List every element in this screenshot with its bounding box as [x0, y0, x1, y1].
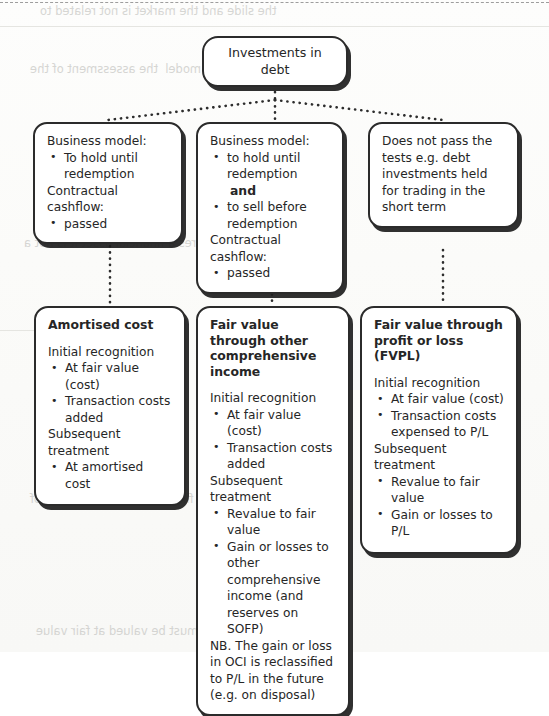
outcome-3-title: Fair value through profit or loss (FVPL): [374, 317, 504, 364]
outcome-2-heading-initial-recognition: Initial recognition: [210, 390, 336, 407]
list-item: to sell before redemption: [210, 199, 330, 232]
root-label: Investments in debt: [212, 45, 338, 78]
criteria-2-heading-contractual-cashflow: Contractual cashflow:: [210, 232, 330, 265]
outcome-3-subsequent-list: Revalue to fair value Gain or losses to …: [374, 474, 504, 540]
outcome-3-initial-list: At fair value (cost) Transaction costs e…: [374, 391, 504, 441]
outcome-1-initial-list: At fair value (cost) Transaction costs a…: [48, 360, 172, 426]
outcome-2-note: NB. The gain or loss in OCI is reclassif…: [210, 638, 336, 704]
criteria-2-business-model-list-b: to sell before redemption: [210, 199, 330, 232]
outcome-2-title: Fair value through other comprehensive i…: [210, 317, 336, 379]
criteria-1-heading-business-model: Business model:: [47, 133, 169, 150]
list-item: Gain or losses to other comprehensive in…: [210, 539, 336, 638]
outcome-2-heading-subsequent-treatment: Subsequent treatment: [210, 473, 336, 506]
node-outcome-amortised-cost[interactable]: Amortised cost Initial recognition At fa…: [34, 306, 186, 506]
criteria-2-cashflow-list: passed: [210, 265, 330, 282]
criteria-1-cashflow-list: passed: [47, 216, 169, 233]
list-item: Transaction costs expensed to P/L: [374, 408, 504, 441]
node-criteria-fvoci[interactable]: Business model: to hold until redemption…: [196, 122, 344, 294]
outcome-3-heading-initial-recognition: Initial recognition: [374, 375, 504, 392]
list-item: At fair value (cost): [210, 407, 336, 440]
node-outcome-fvpl[interactable]: Fair value through profit or loss (FVPL)…: [360, 306, 518, 554]
scan-rule-top: [0, 26, 549, 27]
criteria-2-connector-and: and: [210, 183, 330, 200]
list-item: passed: [47, 216, 169, 233]
outcome-1-heading-subsequent-treatment: Subsequent treatment: [48, 426, 172, 459]
list-item: Revalue to fair value: [210, 506, 336, 539]
list-item: Gain or losses to P/L: [374, 507, 504, 540]
outcome-1-heading-initial-recognition: Initial recognition: [48, 344, 172, 361]
criteria-2-heading-business-model: Business model:: [210, 133, 330, 150]
list-item: Transaction costs added: [48, 393, 172, 426]
criteria-1-heading-contractual-cashflow: Contractual cashflow:: [47, 183, 169, 216]
criteria-2-business-model-list-a: to hold until redemption: [210, 150, 330, 183]
list-item: At amortised cost: [48, 459, 172, 492]
list-item: Revalue to fair value: [374, 474, 504, 507]
outcome-2-subsequent-list: Revalue to fair value Gain or losses to …: [210, 506, 336, 638]
outcome-1-subsequent-list: At amortised cost: [48, 459, 172, 492]
list-item: At fair value (cost): [374, 391, 504, 408]
criteria-1-business-model-list: To hold until redemption: [47, 150, 169, 183]
criteria-3-text: Does not pass the tests e.g. debt invest…: [382, 133, 505, 216]
list-item: to hold until redemption: [210, 150, 330, 183]
node-outcome-fvoci[interactable]: Fair value through other comprehensive i…: [196, 306, 350, 716]
list-item: passed: [210, 265, 330, 282]
list-item: To hold until redemption: [47, 150, 169, 183]
outcome-3-heading-subsequent-treatment: Subsequent treatment: [374, 441, 504, 474]
node-criteria-fvpl[interactable]: Does not pass the tests e.g. debt invest…: [368, 122, 519, 228]
list-item: Transaction costs added: [210, 440, 336, 473]
node-root-investments-in-debt[interactable]: Investments in debt: [202, 36, 348, 87]
node-criteria-amortised-cost[interactable]: Business model: To hold until redemption…: [33, 122, 183, 244]
scan-edge-dashed-line: [0, 2, 549, 3]
list-item: At fair value (cost): [48, 360, 172, 393]
outcome-1-title: Amortised cost: [48, 317, 172, 333]
outcome-2-initial-list: At fair value (cost) Transaction costs a…: [210, 407, 336, 473]
